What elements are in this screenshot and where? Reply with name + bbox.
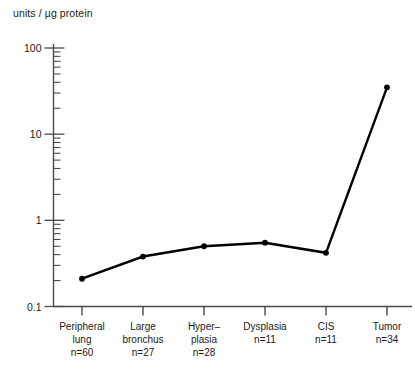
data-point — [79, 276, 85, 282]
axes-layer — [54, 44, 413, 307]
x-category-label: n=60 — [71, 347, 94, 358]
data-point — [384, 84, 390, 90]
y-tick-label: 100 — [24, 42, 42, 54]
y-tick-layer — [45, 48, 65, 307]
x-category-label: Large — [130, 321, 156, 332]
x-category-label: n=11 — [254, 334, 276, 345]
data-line — [82, 87, 387, 278]
x-category-label: n=28 — [193, 347, 216, 358]
x-category-label: Peripheral — [59, 321, 105, 332]
data-point — [262, 240, 268, 246]
x-category-label: n=27 — [132, 347, 155, 358]
x-category-label: Tumor — [373, 321, 402, 332]
x-category-label: bronchus — [122, 334, 163, 345]
x-category-label: plasia — [191, 334, 218, 345]
category-label-layer: Peripherallungn=60Largebronchusn=27Hyper… — [59, 321, 402, 358]
y-tick-label: 1 — [36, 214, 42, 226]
y-tick-label-layer: 1001010.1 — [24, 42, 42, 313]
y-tick-label: 0.1 — [27, 301, 42, 313]
data-point — [201, 243, 207, 249]
x-category-label: CIS — [318, 321, 335, 332]
x-category-label: n=11 — [315, 334, 337, 345]
chart-container: units / µg protein 1001010.1 Peripherall… — [0, 0, 415, 377]
data-point — [140, 254, 146, 260]
x-tick-layer — [82, 307, 387, 316]
data-series-layer — [82, 87, 387, 278]
y-tick-label: 10 — [30, 128, 42, 140]
x-category-label: lung — [73, 334, 92, 345]
x-category-label: n=34 — [376, 334, 399, 345]
x-category-label: Hyper– — [188, 321, 221, 332]
x-category-label: Dysplasia — [243, 321, 287, 332]
data-point-layer — [79, 84, 390, 281]
chart-svg: 1001010.1 Peripherallungn=60Largebronchu… — [0, 0, 415, 377]
data-point — [323, 250, 329, 256]
